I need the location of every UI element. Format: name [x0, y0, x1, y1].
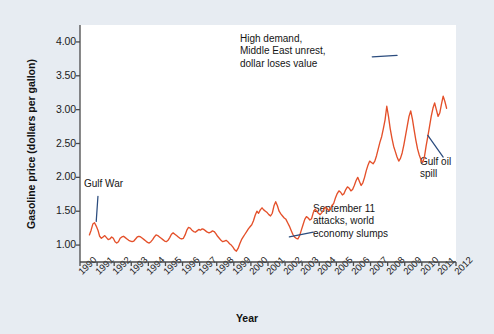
chart-root: Gasoline price (dollars per gallon) Year… — [0, 0, 494, 334]
chart-graphics — [0, 0, 494, 334]
